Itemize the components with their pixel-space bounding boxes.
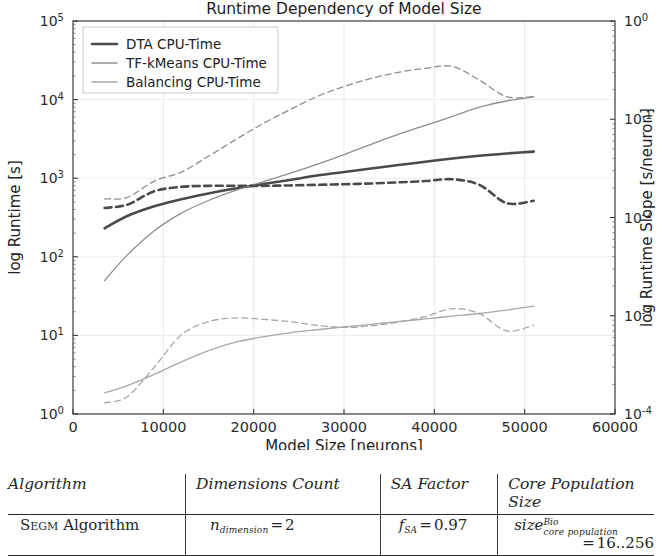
series-line-balancing-slope [105, 309, 534, 403]
y-axis-label: log Runtime [s] [6, 160, 24, 275]
axis-tick-label: 102 [40, 248, 64, 265]
axis-tick-label-x: 20000 [231, 419, 277, 435]
header-dimensions-count: Dimensions Count [186, 474, 381, 514]
table-row: Segm Algorithm ndimension=2 fSA=0.97 siz… [8, 515, 654, 555]
cell-sa-factor: fSA=0.97 [380, 515, 497, 555]
dimensions-equals: = [268, 516, 285, 534]
series-line-balancing-cpu-time [105, 306, 534, 393]
axis-tick-label: 103 [40, 169, 64, 186]
cell-algorithm: Segm Algorithm [8, 515, 186, 555]
header-algorithm: Algorithm [8, 474, 186, 514]
legend-label-1: TF-kMeans CPU-Time [125, 55, 267, 71]
algorithm-name-rest: Algorithm [58, 516, 139, 534]
chart-title: Runtime Dependency of Model Size [206, 0, 481, 18]
algorithm-name-smallcaps: Segm [8, 516, 58, 534]
header-core-population-size: Core Population Size [498, 474, 654, 514]
axis-tick-label: 105 [40, 12, 64, 29]
series-line-dta-slope [105, 179, 534, 208]
legend-label-2: Balancing CPU-Time [126, 74, 261, 90]
core-symbol: size [508, 516, 543, 534]
axis-tick-label: 101 [40, 326, 64, 343]
chart-figure: 10010110210310410510-410-310-210-1100010… [0, 0, 662, 450]
sa-equals: = [417, 516, 434, 534]
axis-tick-label-x: 0 [68, 419, 77, 435]
x-axis-label: Model Size [neurons] [265, 437, 423, 450]
axis-tick-label-x: 10000 [140, 419, 186, 435]
dimensions-subscript: dimension [220, 525, 269, 535]
parameter-table: Algorithm Dimensions Count SA Factor Cor… [8, 474, 654, 556]
sa-subscript: SA [404, 525, 417, 535]
dimensions-value: 2 [285, 516, 295, 534]
axis-tick-label-x: 60000 [592, 419, 638, 435]
axis-tick-label-x: 30000 [321, 419, 367, 435]
axis-tick-label: 104 [40, 91, 64, 108]
sa-value: 0.97 [434, 516, 467, 534]
y2-axis-label: log Runtime Slope [s/neuron] [638, 108, 656, 327]
axis-tick-label: 100 [624, 12, 648, 29]
cell-dimensions-count: ndimension=2 [186, 515, 381, 555]
table-header-row: Algorithm Dimensions Count SA Factor Cor… [8, 474, 654, 514]
cell-core-population-size: sizeBiocore population=16..256 [498, 515, 654, 555]
legend-label-0: DTA CPU-Time [126, 36, 221, 52]
core-subscript: core population [543, 527, 618, 537]
axis-tick-label-x: 40000 [411, 419, 457, 435]
core-superscript: Bio [543, 517, 558, 527]
axis-tick-label: 100 [40, 405, 64, 422]
sa-symbol: f [391, 516, 405, 534]
header-sa-factor: SA Factor [380, 474, 497, 514]
dimensions-symbol: n [196, 516, 220, 534]
axis-tick-label-x: 50000 [502, 419, 548, 435]
runtime-dependency-chart: 10010110210310410510-410-310-210-1100010… [0, 0, 662, 450]
